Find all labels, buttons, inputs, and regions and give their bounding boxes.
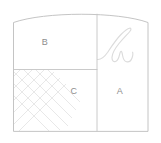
panel-outline xyxy=(14,14,149,131)
region-diagram: B A C xyxy=(0,0,161,143)
diagram-canvas: B A C xyxy=(0,0,161,143)
region-label-a: A xyxy=(117,86,123,96)
region-label-c: C xyxy=(71,86,78,96)
script-flourish-icon xyxy=(98,28,133,62)
lattice-hatch-pattern xyxy=(0,54,80,134)
region-label-b: B xyxy=(42,37,48,47)
